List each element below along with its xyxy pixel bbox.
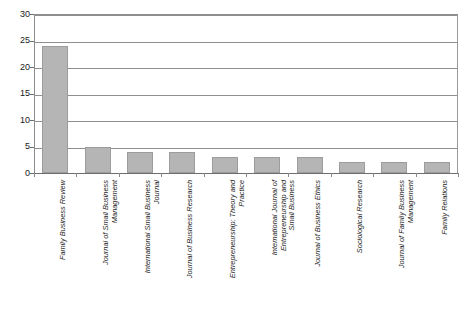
gridline: [35, 15, 457, 16]
bar: [127, 152, 153, 173]
bar: [212, 157, 238, 173]
bar: [42, 46, 68, 173]
y-axis: 051015202530: [0, 0, 30, 309]
y-axis-tick-label: 20: [8, 63, 30, 72]
x-axis-tick-mark: [119, 173, 120, 177]
gridline: [35, 95, 457, 96]
x-axis-tick-label: Family Relations: [441, 180, 450, 292]
x-axis-tick-label-line: Journal of Business Research: [186, 180, 195, 292]
x-axis-tick-label: International Journal ofEntrepreneurship…: [271, 180, 297, 292]
x-axis-tick-label-line: Practice: [237, 180, 246, 292]
x-axis-tick-label: Journal of Business Research: [186, 180, 195, 292]
bar-chart: 051015202530 Family Business ReviewJourn…: [0, 0, 465, 309]
y-axis-tick-mark: [30, 41, 34, 42]
x-axis-tick-label: Journal of Business Ethics: [314, 180, 323, 292]
x-axis-tick-mark: [373, 173, 374, 177]
x-axis-tick-label: Family Business Review: [59, 180, 68, 292]
y-axis-tick-mark: [30, 94, 34, 95]
x-axis-tick-mark: [246, 173, 247, 177]
x-axis-tick-label: Entrepreneurship: Theory andPractice: [229, 180, 246, 292]
x-axis-tick-label-line: Small Business: [288, 180, 297, 292]
x-axis-tick-mark: [34, 173, 35, 177]
x-axis-tick-mark: [288, 173, 289, 177]
x-axis-tick-mark: [76, 173, 77, 177]
x-axis-tick-mark: [204, 173, 205, 177]
bar: [254, 157, 280, 173]
y-axis-tick-mark: [30, 14, 34, 15]
x-axis-tick-mark: [416, 173, 417, 177]
y-axis-tick-label: 0: [8, 169, 30, 178]
gridline: [35, 68, 457, 69]
y-axis-tick-mark: [30, 147, 34, 148]
bar: [339, 162, 365, 173]
x-axis-tick-label-line: Family Business Review: [59, 180, 68, 292]
y-axis-tick-label: 5: [8, 142, 30, 151]
y-axis-tick-label: 15: [8, 89, 30, 98]
bar: [169, 152, 195, 173]
y-axis-tick-mark: [30, 67, 34, 68]
x-axis-tick-label-line: Management: [407, 180, 416, 292]
y-axis-tick-mark: [30, 120, 34, 121]
x-axis-tick-mark: [458, 173, 459, 177]
bar: [85, 147, 111, 174]
y-axis-tick-label: 30: [8, 10, 30, 19]
gridline: [35, 42, 457, 43]
x-axis-tick-label: Journal of Small BusinessManagement: [102, 180, 119, 292]
x-axis-tick-label-line: Journal: [153, 180, 162, 292]
x-axis-tick-mark: [161, 173, 162, 177]
bar: [424, 162, 450, 173]
y-axis-tick-label: 10: [8, 116, 30, 125]
gridline: [35, 121, 457, 122]
x-axis-tick-mark: [331, 173, 332, 177]
y-axis-tick-label: 25: [8, 36, 30, 45]
x-axis-tick-label-line: Family Relations: [441, 180, 450, 292]
bar: [381, 162, 407, 173]
x-axis-tick-label: International Small BusinessJournal: [144, 180, 161, 292]
x-axis-tick-label-line: Journal of Small Business: [102, 180, 111, 292]
x-axis-tick-label-line: Journal of Business Ethics: [314, 180, 323, 292]
x-axis-tick-label-line: Sociological Research: [356, 180, 365, 292]
x-axis-tick-label: Journal of Family BusinessManagement: [398, 180, 415, 292]
x-axis-tick-label-line: Management: [110, 180, 119, 292]
bar: [297, 157, 323, 173]
x-axis-tick-label: Sociological Research: [356, 180, 365, 292]
